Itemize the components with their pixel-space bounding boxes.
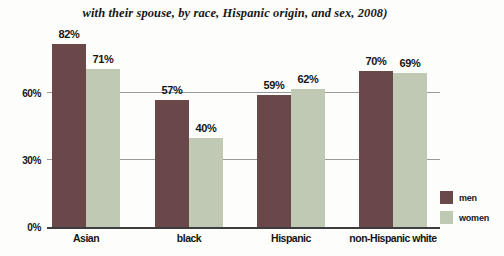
y-tick-label: 60% — [22, 88, 41, 99]
bar-women-hispanic — [291, 89, 325, 227]
category-label-black: black — [177, 232, 201, 244]
legend-item-women: women — [440, 211, 489, 224]
bar-value-label-women-non-hispanic-white: 69% — [400, 57, 421, 69]
y-tick-label: 30% — [22, 155, 41, 166]
legend-swatch-men — [440, 191, 453, 204]
legend-swatch-women — [440, 211, 453, 224]
category-label-hispanic: Hispanic — [271, 232, 311, 244]
chart-figure: with their spouse, by race, Hispanic ori… — [0, 0, 504, 256]
legend-item-men: men — [440, 191, 489, 204]
category-label-asian: Asian — [73, 232, 99, 244]
bar-value-label-women-hispanic: 62% — [298, 73, 319, 85]
y-tick-label: 0% — [27, 222, 41, 233]
plot-area: 82%71%Asian57%40%black59%62%Hispanic70%6… — [47, 25, 440, 229]
bar-value-label-men-non-hispanic-white: 70% — [366, 55, 387, 67]
bar-women-black — [189, 138, 223, 227]
bar-value-label-men-hispanic: 59% — [264, 79, 285, 91]
category-label-non-hispanic-white: non-Hispanic white — [349, 232, 436, 244]
bar-women-asian — [86, 69, 120, 227]
bar-value-label-men-black: 57% — [162, 84, 183, 96]
bar-men-non-hispanic-white — [359, 71, 393, 227]
bar-value-label-men-asian: 82% — [59, 28, 80, 40]
legend: men women — [440, 191, 489, 231]
bar-value-label-women-asian: 71% — [93, 53, 114, 65]
bar-women-non-hispanic-white — [393, 73, 427, 227]
chart-title: with their spouse, by race, Hispanic ori… — [0, 6, 470, 21]
bar-men-hispanic — [257, 95, 291, 227]
legend-label-women: women — [459, 213, 489, 223]
bar-men-black — [155, 100, 189, 227]
bar-men-asian — [52, 44, 86, 227]
bar-value-label-women-black: 40% — [196, 122, 217, 134]
y-axis: 0%30%60% — [0, 25, 45, 227]
legend-label-men: men — [459, 193, 477, 203]
